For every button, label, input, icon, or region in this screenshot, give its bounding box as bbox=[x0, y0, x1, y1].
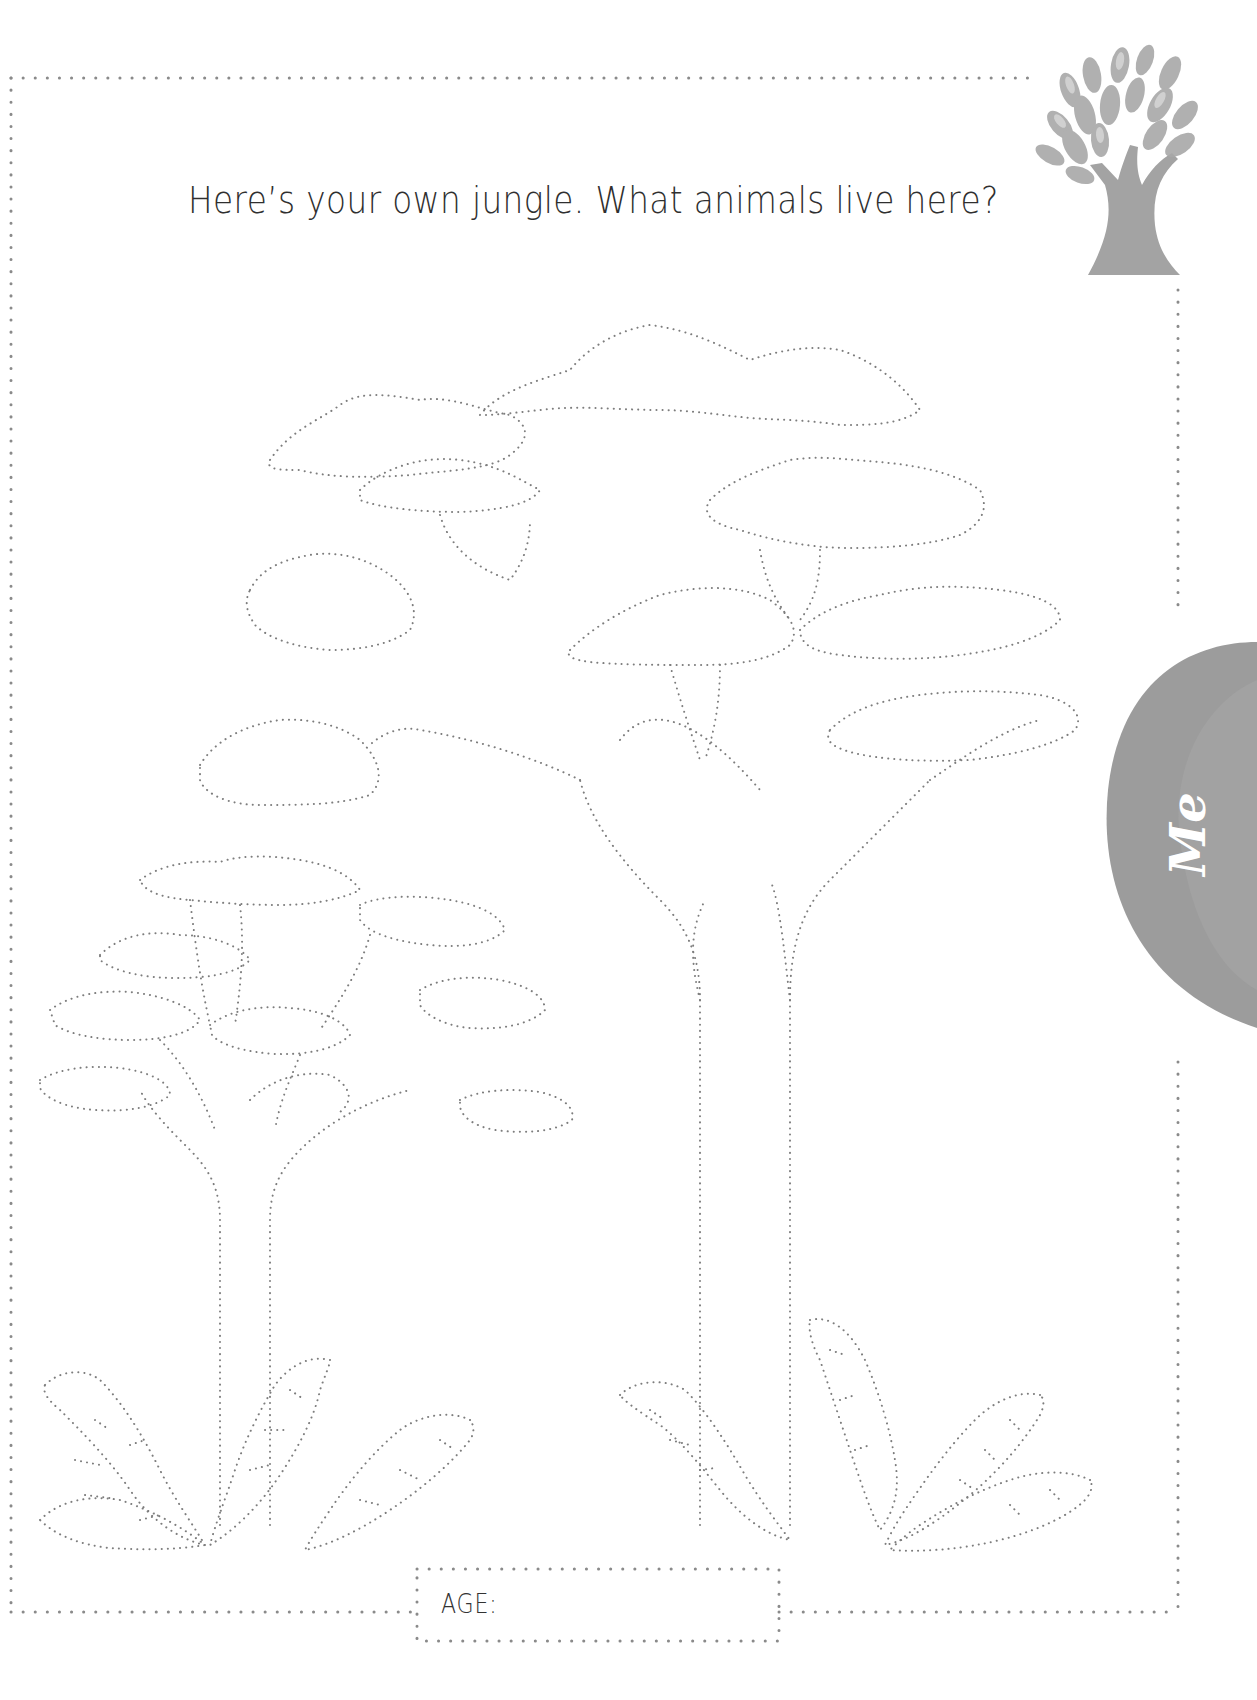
fern-plants-left-outline bbox=[40, 1359, 473, 1550]
age-field[interactable]: AGE: bbox=[417, 1569, 779, 1641]
jungle-coloring-drawing bbox=[0, 0, 1257, 1700]
small-tree-outline bbox=[40, 856, 573, 1525]
age-input[interactable] bbox=[527, 1583, 766, 1629]
fern-plants-right-outline bbox=[620, 1319, 1092, 1551]
large-tree-outline bbox=[200, 325, 1078, 1525]
age-label: AGE: bbox=[441, 1589, 498, 1619]
